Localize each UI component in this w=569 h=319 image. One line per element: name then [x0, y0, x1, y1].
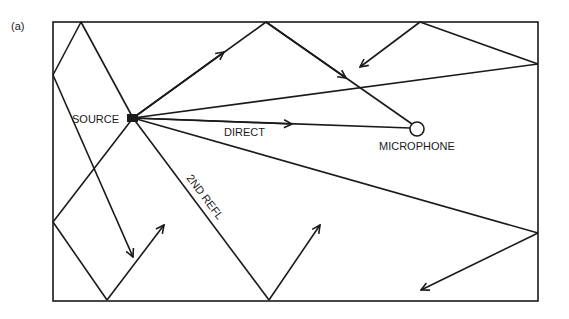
reflection-upper-left-leg1 — [81, 22, 133, 118]
reflection-lower-left-leg1 — [53, 118, 133, 222]
reflection-right-upper-arrow — [360, 22, 420, 67]
reflection-lower-left-leg2 — [53, 222, 107, 300]
acoustic-reflection-diagram: (a) SOURCE DIRECT MICROPHONE 2ND REFL — [0, 0, 569, 319]
reflection-right-lower-arrow — [421, 233, 538, 290]
reflection-upper-left-arrow — [53, 75, 133, 257]
reflection-upper-left-leg2 — [53, 22, 81, 75]
microphone-icon — [410, 122, 424, 136]
panel-label: (a) — [11, 20, 24, 32]
reflection-right-upper-leg2 — [420, 22, 538, 64]
reflection-top-arrow2 — [266, 22, 346, 78]
direct-label: DIRECT — [224, 126, 265, 138]
room-outline — [53, 22, 538, 301]
reflection-lower-left-arrow — [107, 225, 164, 300]
second-reflection-arrow — [269, 225, 320, 300]
direct-arrow — [133, 118, 292, 124]
second-reflection-leg1 — [133, 118, 269, 300]
microphone-label: MICROPHONE — [379, 140, 455, 152]
reflection-right-upper-leg1 — [133, 64, 538, 118]
source-label: SOURCE — [72, 113, 119, 125]
source-marker — [127, 114, 138, 122]
